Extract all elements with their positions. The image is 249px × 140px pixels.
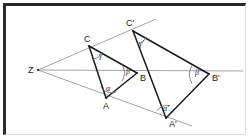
diagram-root: Z A B C A' B' C' α β γ α' β' γ' bbox=[0, 0, 249, 140]
angle-label-beta-prime: β' bbox=[194, 68, 201, 77]
point-label-Z: Z bbox=[28, 65, 34, 75]
vertex-dot-Cp bbox=[132, 30, 134, 32]
point-label-A-prime: A' bbox=[169, 119, 177, 129]
ray-Z-through-A bbox=[38, 70, 192, 126]
vertex-dot-Bp bbox=[208, 73, 210, 75]
vertex-dot-A bbox=[105, 97, 107, 99]
vertex-dot-B bbox=[136, 72, 138, 74]
point-label-C: C bbox=[84, 34, 91, 44]
edge-ApBp bbox=[166, 74, 209, 118]
point-label-C-prime: C' bbox=[126, 18, 134, 28]
point-label-B-prime: B' bbox=[212, 73, 220, 83]
vertex-dot-C bbox=[88, 45, 90, 47]
point-label-B: B bbox=[140, 73, 146, 83]
vertex-labels: Z A B C A' B' C' bbox=[28, 18, 220, 129]
vertex-dot-Z bbox=[37, 69, 39, 71]
point-label-A: A bbox=[103, 101, 109, 111]
angle-label-alpha-prime: α' bbox=[163, 104, 169, 113]
ray-Z-through-B bbox=[38, 70, 243, 71]
angle-label-alpha: α bbox=[106, 84, 111, 93]
geometry-canvas: Z A B C A' B' C' α β γ α' β' γ' bbox=[0, 0, 249, 140]
vertex-markers bbox=[37, 30, 210, 119]
angle-label-gamma-prime: γ' bbox=[139, 39, 144, 48]
vertex-dot-Ap bbox=[165, 117, 167, 119]
angle-arc-beta-prime bbox=[190, 65, 193, 83]
edge-AB bbox=[106, 73, 137, 98]
angle-label-beta: β bbox=[125, 67, 130, 76]
